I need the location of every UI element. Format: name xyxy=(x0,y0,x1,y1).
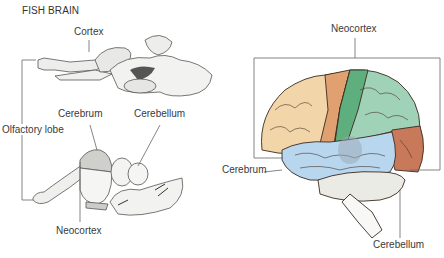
label-cerebrum-fish: Cerebrum xyxy=(58,108,102,119)
label-neocortex-fish: Neocortex xyxy=(56,225,102,236)
label-cortex: Cortex xyxy=(74,26,103,37)
label-olfactory-lobe: Olfactory lobe xyxy=(2,124,64,135)
brain-cerebellum xyxy=(318,172,405,201)
diagram-canvas xyxy=(0,0,444,258)
fish-brain-bottom xyxy=(33,150,183,215)
label-cerebellum-human: Cerebellum xyxy=(373,239,424,250)
label-cerebellum-fish: Cerebellum xyxy=(134,108,185,119)
human-brain xyxy=(261,70,423,238)
label-neocortex-human: Neocortex xyxy=(331,23,377,34)
fish-brain-title: FISH BRAIN xyxy=(22,5,79,16)
label-cerebrum-human: Cerebrum xyxy=(222,164,266,175)
fish-brain-top xyxy=(38,35,212,96)
